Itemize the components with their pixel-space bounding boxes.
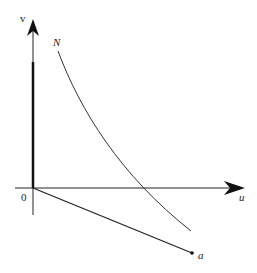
segment-origin-to-a xyxy=(33,188,192,253)
x-axis-label: u xyxy=(239,191,245,203)
y-axis-label: v xyxy=(20,12,26,24)
curve-label-n: N xyxy=(52,36,61,48)
diagram-canvas: v N u 0 a xyxy=(0,0,257,273)
point-label-a: a xyxy=(198,249,204,261)
point-a xyxy=(190,251,194,255)
origin-label: 0 xyxy=(21,191,27,203)
diagram-svg: v N u 0 a xyxy=(0,0,257,273)
curve-n xyxy=(58,51,191,231)
